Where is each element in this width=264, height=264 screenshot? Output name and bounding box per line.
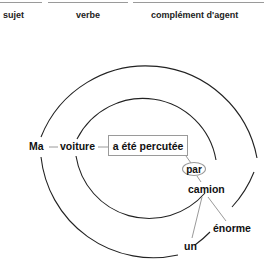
word-par: par	[186, 164, 202, 175]
par-oval: par	[182, 162, 206, 176]
outer-circle-lower	[195, 232, 210, 245]
word-voiture: voiture	[60, 140, 95, 152]
word-ma: Ma	[29, 140, 44, 152]
outer-circle-lower-right	[232, 172, 254, 207]
word-verb: a été percutée	[113, 140, 184, 152]
connector-camion-enorme	[208, 197, 226, 221]
connector-par-camion	[197, 176, 201, 182]
word-un: un	[184, 240, 197, 252]
verb-box: a été percutée	[108, 135, 188, 156]
word-camion: camion	[188, 183, 225, 195]
word-enorme: énorme	[213, 222, 251, 234]
